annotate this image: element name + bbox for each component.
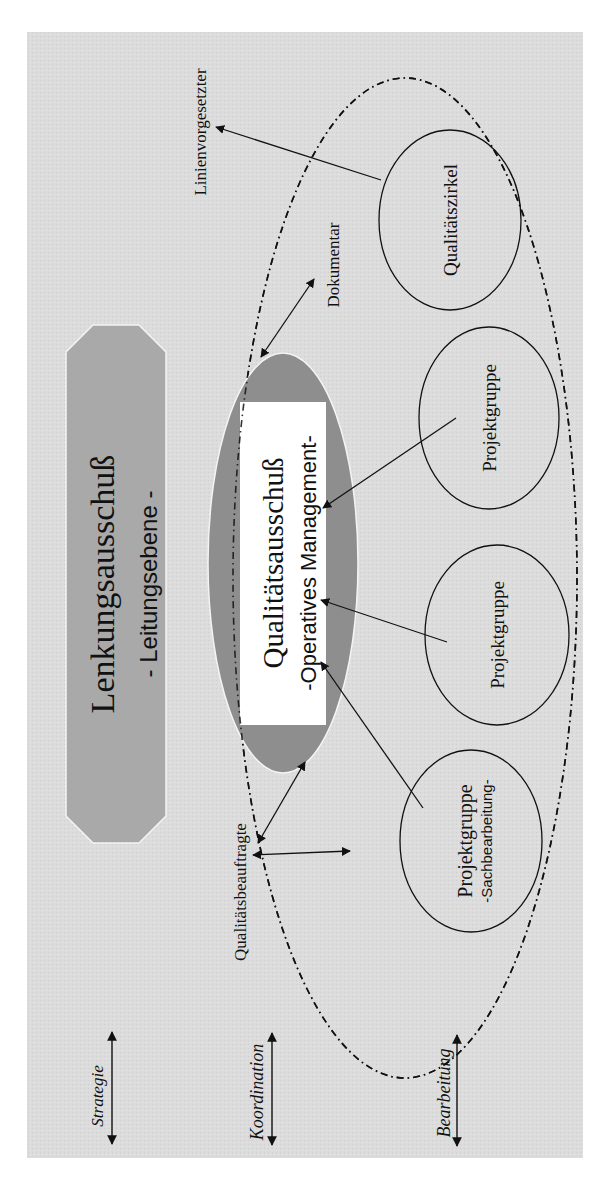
level-label-koordination: Koordination — [247, 1044, 267, 1141]
group-label: Qualitätszirkel — [440, 164, 461, 276]
documentalist-label: Dokumentar — [324, 222, 343, 307]
quality-organization-diagram: Lenkungsausschuß - Leitungsebene - Quali… — [0, 0, 612, 1183]
quality-committee-title: Qualitätsausschuß — [257, 457, 289, 668]
group-label: Projektgruppe — [479, 364, 500, 472]
quality-committee-subtitle: -Operatives Management- — [296, 435, 321, 691]
level-label-strategie: Strategie — [88, 1065, 107, 1127]
group-sublabel: -Sachbearbeitung- — [478, 779, 495, 902]
line-manager-label: Linienvorgesetzter — [191, 68, 210, 195]
steering-committee-subtitle: - Leitungsebene - — [135, 491, 162, 678]
group-label: Projektgruppe — [487, 581, 508, 689]
quality-officer-label: Qualitätsbeauftragte — [231, 823, 250, 961]
steering-committee-title: Lenkungsausschuß — [84, 455, 121, 714]
group-label: Projektgruppe — [454, 784, 477, 897]
level-label-bearbeitung: Bearbeitung — [434, 1049, 454, 1138]
